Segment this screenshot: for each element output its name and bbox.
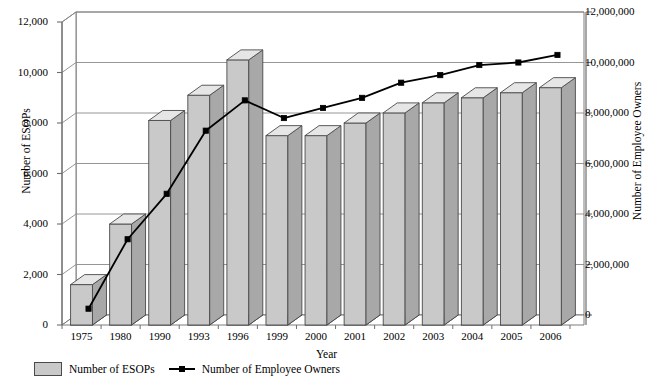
- x-axis-tick-label: 1996: [218, 331, 258, 342]
- x-axis-tick-label: 2006: [530, 331, 570, 342]
- legend-entry-employee-owners: Number of Employee Owners: [169, 363, 340, 375]
- legend-line-swatch: [169, 363, 195, 375]
- legend-entry-esops: Number of ESOPs: [34, 362, 155, 376]
- legend-label-esops: Number of ESOPs: [69, 363, 155, 375]
- left-axis-title: Number of ESOPs: [20, 81, 32, 221]
- chart-legend: Number of ESOPs Number of Employee Owner…: [34, 362, 340, 376]
- esop-chart: 02,0004,0006,0008,00010,00012,000 02,000…: [0, 0, 653, 389]
- x-axis-tick-label: 1980: [101, 331, 141, 342]
- x-axis-tick-label: 2005: [491, 331, 531, 342]
- right-axis-title: Number of Employee Owners: [631, 71, 643, 231]
- legend-label-employee-owners: Number of Employee Owners: [202, 363, 340, 375]
- x-axis-tick-label: 1990: [140, 331, 180, 342]
- x-axis-tick-label: 1993: [179, 331, 219, 342]
- legend-bar-swatch: [34, 362, 62, 376]
- x-axis-tick-label: 2002: [374, 331, 414, 342]
- x-axis-tick-label: 1999: [257, 331, 297, 342]
- x-axis-tick-label: 1975: [62, 331, 102, 342]
- x-axis-tick-labels: 1975198019901993199619992000200120022003…: [0, 0, 653, 389]
- x-axis-tick-label: 2003: [413, 331, 453, 342]
- x-axis-tick-label: 2001: [335, 331, 375, 342]
- x-axis-tick-label: 2000: [296, 331, 336, 342]
- x-axis-title: Year: [0, 348, 653, 360]
- x-axis-tick-label: 2004: [452, 331, 492, 342]
